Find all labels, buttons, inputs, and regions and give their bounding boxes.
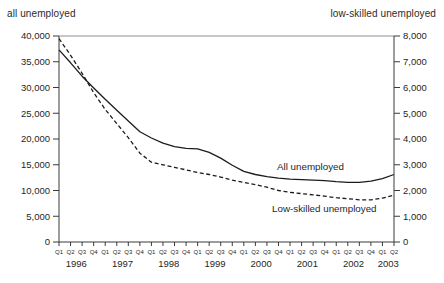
- quarter-tick-label: Q3: [171, 249, 180, 255]
- quarter-tick-label: Q3: [263, 249, 272, 255]
- quarter-tick-label: Q3: [309, 249, 318, 255]
- year-label: 1997: [112, 258, 133, 269]
- quarter-tick-label: Q2: [298, 249, 307, 255]
- left-axis-tick-label: 5,000: [26, 211, 50, 222]
- quarter-tick-label: Q2: [344, 249, 353, 255]
- right-axis-tick-label: 4,000: [403, 133, 427, 144]
- right-axis-tick-label: 6,000: [403, 82, 427, 93]
- right-axis-tick-label: 5,000: [403, 108, 427, 119]
- right-axis-tick-label: 0: [403, 236, 408, 247]
- left-axis-tick-label: 20,000: [21, 133, 50, 144]
- series-line-dashed: [59, 39, 394, 200]
- line-chart: 05,00010,00015,00020,00025,00030,00035,0…: [0, 0, 444, 283]
- quarter-tick-label: Q3: [78, 249, 87, 255]
- year-label: 2002: [343, 258, 364, 269]
- quarter-tick-label: Q2: [67, 249, 76, 255]
- quarter-tick-label: Q4: [228, 249, 237, 255]
- left-axis-tick-label: 15,000: [21, 159, 50, 170]
- quarter-tick-label: Q3: [124, 249, 133, 255]
- year-label: 1996: [66, 258, 87, 269]
- quarter-tick-label: Q4: [136, 249, 145, 255]
- year-label: 1998: [158, 258, 179, 269]
- series-label: All unemployed: [277, 161, 344, 172]
- quarter-tick-label: Q2: [113, 249, 122, 255]
- quarter-tick-label: Q3: [217, 249, 226, 255]
- quarter-tick-label: Q2: [390, 249, 399, 255]
- quarter-tick-label: Q4: [321, 249, 330, 255]
- series-label: Low-skilled unemployed: [272, 203, 377, 214]
- quarter-tick-label: Q1: [378, 249, 387, 255]
- year-label: 2000: [251, 258, 272, 269]
- right-axis-tick-label: 2,000: [403, 185, 427, 196]
- quarter-tick-label: Q2: [159, 249, 168, 255]
- right-axis-tick-label: 1,000: [403, 211, 427, 222]
- year-label: 1999: [204, 258, 225, 269]
- left-axis-tick-label: 0: [45, 236, 50, 247]
- year-label: 2003: [378, 258, 399, 269]
- left-axis-tick-label: 40,000: [21, 30, 50, 41]
- right-axis-tick-label: 8,000: [403, 30, 427, 41]
- quarter-tick-label: Q1: [194, 249, 203, 255]
- quarter-tick-label: Q4: [367, 249, 376, 255]
- quarter-tick-label: Q1: [147, 249, 156, 255]
- quarter-tick-label: Q1: [286, 249, 295, 255]
- year-label: 2001: [297, 258, 318, 269]
- quarter-tick-label: Q2: [251, 249, 260, 255]
- quarter-tick-label: Q3: [355, 249, 364, 255]
- right-axis-tick-label: 7,000: [403, 56, 427, 67]
- quarter-tick-label: Q4: [274, 249, 283, 255]
- left-axis-tick-label: 30,000: [21, 82, 50, 93]
- left-axis-tick-label: 10,000: [21, 185, 50, 196]
- quarter-tick-label: Q1: [240, 249, 249, 255]
- quarter-tick-label: Q1: [332, 249, 341, 255]
- quarter-tick-label: Q2: [205, 249, 214, 255]
- chart-figure: all unemployed low-skilled unemployed 05…: [0, 0, 444, 283]
- quarter-tick-label: Q4: [90, 249, 99, 255]
- quarter-tick-label: Q4: [182, 249, 191, 255]
- left-axis-tick-label: 25,000: [21, 108, 50, 119]
- left-axis-tick-label: 35,000: [21, 56, 50, 67]
- right-axis-tick-label: 3,000: [403, 159, 427, 170]
- quarter-tick-label: Q1: [55, 249, 64, 255]
- quarter-tick-label: Q1: [101, 249, 110, 255]
